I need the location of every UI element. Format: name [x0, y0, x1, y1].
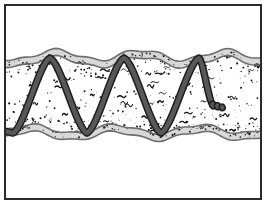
texture-dot	[150, 60, 151, 61]
texture-dot	[28, 127, 30, 129]
texture-dot	[219, 78, 220, 79]
texture-dot	[242, 67, 244, 69]
texture-dot	[246, 125, 247, 126]
texture-dot	[255, 129, 256, 130]
texture-dot	[153, 55, 155, 57]
texture-dot	[80, 69, 82, 71]
texture-dot	[247, 66, 249, 68]
texture-dot	[235, 125, 236, 126]
texture-dot	[119, 120, 120, 121]
texture-dot	[70, 56, 71, 57]
texture-dot	[71, 80, 72, 81]
texture-dot	[160, 117, 162, 119]
texture-dot	[55, 136, 56, 137]
texture-dot	[63, 123, 65, 125]
texture-dot	[172, 97, 174, 99]
texture-dot	[26, 73, 27, 74]
texture-dot	[112, 113, 114, 115]
texture-dot	[141, 56, 142, 57]
texture-dot	[28, 65, 30, 67]
texture-dot	[236, 98, 238, 100]
texture-dot	[56, 81, 58, 83]
texture-dot	[248, 123, 250, 125]
texture-dot	[136, 117, 137, 118]
texture-dot	[139, 55, 140, 56]
texture-dot	[57, 120, 59, 122]
texture-dot	[251, 80, 253, 82]
texture-dot	[241, 71, 243, 73]
illustration-stage: A horizontal band of speckled, granular …	[0, 0, 266, 204]
texture-dot	[114, 97, 115, 98]
texture-dot	[103, 115, 105, 117]
texture-dot	[78, 136, 80, 138]
texture-dot	[234, 110, 235, 111]
texture-dot	[70, 125, 72, 127]
texture-dot	[105, 115, 106, 116]
texture-dot	[150, 95, 151, 96]
texture-dot	[213, 117, 214, 118]
texture-dot	[254, 135, 255, 136]
texture-dot	[142, 54, 143, 55]
texture-dot	[46, 106, 47, 107]
texture-dot	[109, 110, 110, 111]
texture-dot	[95, 74, 97, 76]
texture-dot	[236, 62, 238, 64]
texture-dot	[223, 124, 225, 126]
texture-dot	[135, 108, 136, 109]
texture-dot	[205, 128, 207, 130]
texture-dot	[240, 78, 241, 79]
texture-dot	[136, 126, 138, 128]
texture-dot	[6, 119, 8, 121]
texture-dot	[178, 129, 180, 131]
texture-dot	[8, 102, 10, 104]
texture-dot	[22, 104, 23, 105]
texture-dot	[115, 58, 116, 59]
texture-dot	[40, 117, 42, 119]
texture-dot	[43, 56, 44, 57]
texture-dot	[200, 128, 201, 129]
texture-dot	[9, 64, 11, 66]
texture-dot	[126, 114, 127, 115]
texture-dot	[239, 126, 240, 127]
texture-dot	[233, 54, 235, 56]
texture-dot	[102, 74, 104, 76]
texture-dot	[26, 66, 27, 67]
texture-dot	[27, 128, 28, 129]
texture-dot	[252, 122, 253, 123]
texture-dot	[248, 105, 249, 106]
texture-dot	[15, 121, 16, 122]
texture-dot	[190, 93, 192, 95]
texture-dot	[47, 92, 48, 93]
texture-dot	[161, 63, 162, 64]
texture-dot	[85, 106, 86, 107]
texture-dot	[50, 92, 51, 93]
texture-dot	[99, 121, 100, 122]
texture-dot	[9, 71, 10, 72]
texture-dot	[55, 82, 56, 83]
texture-dot	[84, 90, 86, 92]
texture-dot	[135, 55, 137, 57]
texture-dot	[212, 115, 213, 116]
texture-dot	[215, 118, 217, 120]
texture-dot	[237, 55, 238, 56]
texture-dot	[154, 101, 155, 102]
texture-dot	[238, 125, 239, 126]
texture-dot	[117, 110, 119, 112]
texture-dot	[165, 109, 166, 110]
texture-dot	[203, 92, 204, 93]
texture-dot	[168, 73, 170, 75]
texture-dot	[186, 64, 187, 65]
texture-dot	[88, 120, 89, 121]
texture-dot	[159, 137, 160, 138]
texture-dot	[114, 129, 115, 130]
texture-dot	[202, 112, 203, 113]
texture-dot	[91, 89, 92, 90]
texture-dot	[14, 103, 16, 105]
texture-dot	[245, 134, 246, 135]
texture-dot	[7, 72, 8, 73]
coil-ring	[218, 103, 226, 111]
texture-dot	[69, 70, 70, 71]
texture-dot	[216, 95, 217, 96]
texture-dot	[74, 70, 76, 72]
texture-dot	[230, 51, 232, 53]
